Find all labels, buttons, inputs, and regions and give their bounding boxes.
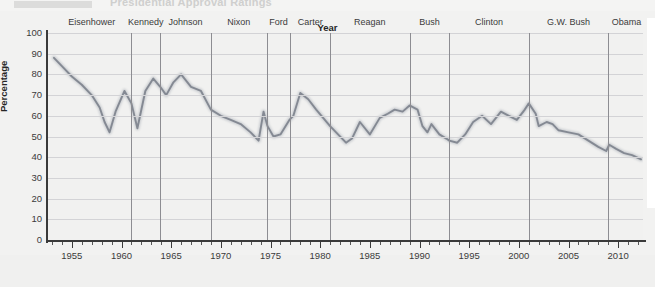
x-tick-mark-1962 [141,242,142,245]
x-tick-mark-1974 [261,242,262,245]
gridline-y-80 [47,74,643,75]
x-tick-1980: 1980 [310,250,331,261]
gridline-y-90 [47,54,643,55]
x-tick-1985: 1985 [359,250,380,261]
x-tick-mark-1992 [439,242,440,245]
y-tick-40: 40 [0,151,42,162]
x-tick-mark-1985 [370,242,371,248]
term-divider-obama [608,33,609,240]
x-tick-mark-1968 [201,242,202,245]
x-tick-mark-2007 [588,242,589,245]
x-tick-mark-1972 [241,242,242,245]
x-tick-mark-1977 [290,242,291,245]
x-tick-1960: 1960 [111,250,132,261]
term-divider-johnson [160,33,161,240]
x-tick-mark-1958 [102,242,103,245]
x-tick-mark-2000 [519,242,520,248]
x-tick-2005: 2005 [558,250,579,261]
x-tick-mark-2008 [598,242,599,245]
x-tick-mark-1990 [420,242,421,248]
x-tick-mark-1971 [231,242,232,245]
title-bar-decoration [14,1,92,8]
x-tick-mark-1973 [251,242,252,245]
x-tick-mark-1961 [131,242,132,245]
x-tick-mark-1956 [82,242,83,245]
x-tick-mark-1957 [92,242,93,245]
x-tick-mark-1976 [280,242,281,245]
x-tick-mark-1986 [380,242,381,245]
page-right-margin [647,18,655,208]
chart-title: Presidential Approval Ratings [110,0,272,8]
x-tick-1970: 1970 [210,250,231,261]
x-tick-mark-1996 [479,242,480,245]
x-tick-mark-1983 [350,242,351,245]
x-tick-mark-1959 [112,242,113,245]
y-tick-10: 10 [0,213,42,224]
x-tick-mark-1988 [400,242,401,245]
y-tick-30: 30 [0,172,42,183]
x-tick-mark-1970 [221,242,222,248]
x-tick-mark-2011 [628,242,629,245]
x-tick-mark-1993 [449,242,450,245]
x-tick-2010: 2010 [608,250,629,261]
x-tick-mark-1995 [469,242,470,248]
x-tick-mark-1998 [499,242,500,245]
y-axis-line [46,30,48,243]
x-tick-mark-1979 [310,242,311,245]
x-tick-1965: 1965 [161,250,182,261]
x-tick-1955: 1955 [61,250,82,261]
y-tick-50: 50 [0,131,42,142]
x-tick-mark-2005 [569,242,570,248]
y-axis-title: Percentage [0,61,9,112]
x-tick-1995: 1995 [459,250,480,261]
x-axis-title: Year [0,22,655,33]
x-tick-1990: 1990 [409,250,430,261]
x-tick-mark-2003 [549,242,550,245]
x-tick-mark-1999 [509,242,510,245]
term-divider-g-w-bush [529,33,530,240]
x-tick-mark-1994 [459,242,460,245]
x-tick-mark-1955 [72,242,73,248]
x-tick-mark-1984 [360,242,361,245]
x-tick-1975: 1975 [260,250,281,261]
x-tick-mark-1966 [181,242,182,245]
term-divider-reagan [330,33,331,240]
x-tick-mark-1953 [52,242,53,245]
x-tick-mark-2006 [578,242,579,245]
x-tick-mark-1954 [62,242,63,245]
x-tick-mark-1989 [410,242,411,245]
x-tick-mark-2012 [638,242,639,245]
x-tick-mark-1967 [191,242,192,245]
y-tick-90: 90 [0,48,42,59]
x-tick-mark-1978 [300,242,301,245]
y-tick-20: 20 [0,193,42,204]
x-tick-mark-2009 [608,242,609,245]
term-divider-ford [267,33,268,240]
x-tick-mark-2001 [529,242,530,245]
x-tick-2000: 2000 [508,250,529,261]
x-tick-mark-1980 [320,242,321,248]
x-tick-mark-2002 [539,242,540,245]
x-tick-mark-1960 [122,242,123,248]
title-strip: Presidential Approval Ratings [0,0,655,11]
gridline-y-10 [47,219,643,220]
y-tick-0: 0 [0,234,42,245]
gridline-y-60 [47,116,643,117]
gridline-y-50 [47,137,643,138]
x-tick-mark-1981 [330,242,331,245]
x-tick-mark-1997 [489,242,490,245]
x-tick-mark-2010 [618,242,619,248]
gridline-y-100 [47,33,643,34]
x-axis-line [46,240,646,242]
term-divider-bush [410,33,411,240]
gridline-y-20 [47,199,643,200]
x-tick-mark-1963 [151,242,152,245]
x-tick-mark-1987 [390,242,391,245]
x-tick-mark-1991 [429,242,430,245]
plot-area [47,33,643,240]
term-divider-nixon [211,33,212,240]
term-divider-kennedy [131,33,132,240]
x-tick-mark-2004 [559,242,560,245]
gridline-y-40 [47,157,643,158]
x-tick-mark-1964 [161,242,162,245]
